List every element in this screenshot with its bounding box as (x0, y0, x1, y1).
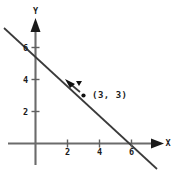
data-point-3-3 (81, 93, 85, 97)
y-tick-label-4: 4 (23, 75, 28, 85)
y-tick-label-6: 6 (23, 43, 28, 53)
x-tick-label-4: 4 (97, 147, 102, 157)
plot-canvas: 2 4 6 2 4 6 X Y (3, 3) (0, 0, 180, 173)
x-axis-label: X (165, 138, 170, 148)
y-axis-arrowhead (31, 18, 41, 32)
x-tick-label-2: 2 (65, 147, 70, 157)
x-tick-label-6: 6 (129, 147, 134, 157)
y-tick-label-2: 2 (23, 107, 28, 117)
x-axis-arrowhead (151, 139, 164, 149)
y-axis-label: Y (33, 6, 39, 16)
triangle-marker-icon (76, 81, 82, 86)
coordinate-plot-figure: 2 4 6 2 4 6 X Y (3, 3) (0, 0, 180, 173)
point-annotation-label: (3, 3) (92, 90, 128, 100)
